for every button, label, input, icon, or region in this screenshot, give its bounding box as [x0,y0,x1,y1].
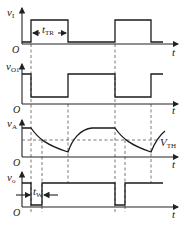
origin-label: O [13,207,20,218]
tTR-label: tTR [42,23,54,37]
panel-vO1: vO1 O t [6,60,178,116]
origin-label: O [12,44,19,55]
timing-diagram: vI O t tTR vO1 O t vA O t VTH vo O t tW [0,0,187,232]
t-axis-label: t [172,46,176,58]
axis-label-vA: vA [7,117,17,131]
axis-label-vO1: vO1 [6,60,20,74]
vO-waveform [22,183,163,205]
t-axis-label: t [172,208,176,220]
vth-label: VTH [160,136,176,150]
panel-vA: vA O t VTH [7,117,178,170]
panel-vI: vI O t tTR [7,6,178,58]
origin-label: O [13,104,20,115]
t-axis-label: t [172,104,176,116]
panel-vO: vo O t tW [7,171,178,220]
origin-label: O [13,157,20,168]
t-axis-label: t [172,158,176,170]
axis-label-vI: vI [7,6,15,20]
axis-label-vO: vo [7,171,16,185]
vO1-waveform [22,74,163,97]
